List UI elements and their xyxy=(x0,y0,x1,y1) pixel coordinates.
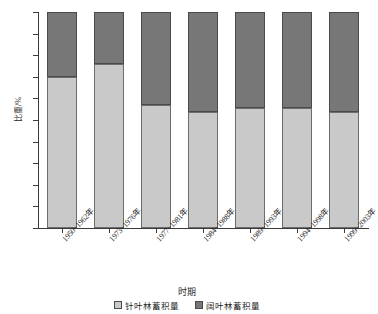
chart-legend: 针叶林蓄积量阔叶林蓄积量 xyxy=(0,299,373,311)
bar-group xyxy=(47,12,77,228)
legend-item[interactable]: 针叶林蓄积量 xyxy=(114,299,179,311)
light-gray-swatch-icon xyxy=(114,301,122,309)
bar-group xyxy=(329,12,359,228)
legend-label: 阔叶林蓄积量 xyxy=(206,299,260,311)
bar-segment-broadleaf xyxy=(329,12,359,112)
bar-segment-coniferous xyxy=(141,105,171,228)
bar-group xyxy=(188,12,218,228)
bar-segment-broadleaf xyxy=(188,12,218,112)
bar-segment-broadleaf xyxy=(47,12,77,77)
bar-group xyxy=(235,12,265,228)
bar-segment-coniferous xyxy=(235,108,265,228)
bar-segment-coniferous xyxy=(282,108,312,228)
bar-segment-broadleaf xyxy=(282,12,312,108)
plot-area xyxy=(38,12,368,228)
bar-segment-coniferous xyxy=(94,64,124,228)
legend-label: 针叶林蓄积量 xyxy=(125,299,179,311)
legend-item[interactable]: 阔叶林蓄积量 xyxy=(195,299,260,311)
bar-group xyxy=(282,12,312,228)
dark-gray-swatch-icon xyxy=(195,301,203,309)
bar-segment-broadleaf xyxy=(141,12,171,105)
bar-group xyxy=(94,12,124,228)
bar-segment-broadleaf xyxy=(94,12,124,64)
bar-segment-coniferous xyxy=(329,112,359,228)
y-tick-mark xyxy=(33,228,38,229)
bar-segment-coniferous xyxy=(188,112,218,228)
bar-segment-broadleaf xyxy=(235,12,265,108)
bar-group xyxy=(141,12,171,228)
x-axis-title: 时期 xyxy=(0,285,373,298)
bar-segment-coniferous xyxy=(47,77,77,228)
y-axis-title: 比重/% xyxy=(12,80,23,140)
